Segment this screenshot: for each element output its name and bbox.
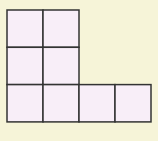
grid-cell-r2-c3 xyxy=(115,85,151,122)
l-shape-grid-diagram xyxy=(0,0,158,141)
grid-cell-r0-c1 xyxy=(43,10,79,47)
grid-cell-r1-c1 xyxy=(43,47,79,84)
grid-cell-r2-c1 xyxy=(43,85,79,122)
grid-cell-r1-c0 xyxy=(7,47,43,84)
grid-cell-r2-c2 xyxy=(79,85,115,122)
grid-cell-r0-c0 xyxy=(7,10,43,47)
grid-cell-r2-c0 xyxy=(7,85,43,122)
